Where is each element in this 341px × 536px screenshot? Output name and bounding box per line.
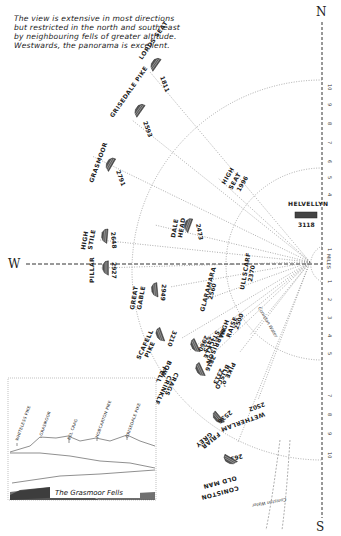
scale-north: 10 9 8 7 6 5 4 1 <box>327 84 333 251</box>
svg-text:7: 7 <box>327 141 333 144</box>
svg-text:2791: 2791 <box>115 169 127 187</box>
fell-scafell-pike: SCAFELL PIKE 3210 <box>135 327 179 360</box>
svg-text:2593: 2593 <box>142 120 154 138</box>
panorama-inset: WHITELESS PIKE GRASMOOR EEL CRAG HOBCART… <box>8 378 156 500</box>
svg-text:3210: 3210 <box>166 330 178 348</box>
fell-grisedale-pike: GRISEDALE PIKE 2593 <box>108 65 154 138</box>
fell-great-gable: GREAT GABLE 2949 <box>128 283 168 311</box>
scale-miles-label: MILES <box>326 254 332 269</box>
fell-grasmoor: GRASMOOR 2791 <box>87 141 127 187</box>
svg-text:2500: 2500 <box>232 312 244 330</box>
fell-high-seat: HIGH SEAT 1996 <box>220 166 249 193</box>
fell-glaramara: GLARAMARA 2560 <box>198 266 217 312</box>
svg-text:2370: 2370 <box>246 265 256 283</box>
west-label: W <box>8 257 21 271</box>
fell-dale-head: DALE HEAD 2473 <box>169 217 205 241</box>
view-diagram: N S W 10 9 8 7 6 5 4 1 MILES 1 2 3 4 5 7… <box>0 0 341 536</box>
svg-text:4: 4 <box>327 334 333 337</box>
north-label: N <box>316 5 327 19</box>
svg-text:5: 5 <box>327 352 333 355</box>
svg-text:3118: 3118 <box>298 221 315 228</box>
svg-text:2927: 2927 <box>111 262 118 279</box>
fell-high-stile: HIGH STILE 2648 <box>79 229 118 251</box>
svg-text:9: 9 <box>327 432 333 435</box>
svg-text:9: 9 <box>327 103 333 106</box>
south-label: S <box>316 520 324 534</box>
fell-pillar: PILLAR 2927 <box>88 257 118 283</box>
fell-bowfell: BOW FELL 2960 <box>155 335 211 385</box>
svg-text:6: 6 <box>327 160 333 163</box>
svg-text:7: 7 <box>327 394 333 397</box>
svg-text:8: 8 <box>327 413 333 416</box>
svg-text:5: 5 <box>327 176 333 179</box>
scale-south: 1 2 3 4 5 7 8 9 10 <box>327 280 333 458</box>
svg-text:4: 4 <box>327 193 333 196</box>
panorama-caption: The Grasmoor Fells <box>55 489 123 497</box>
svg-text:10: 10 <box>327 84 333 90</box>
svg-text:1: 1 <box>327 280 333 283</box>
svg-text:1: 1 <box>327 248 333 251</box>
svg-text:2648: 2648 <box>110 231 118 248</box>
svg-text:3: 3 <box>327 316 333 319</box>
fell-pike-o-blisco: PIKE o' BLISCO 2313 <box>212 362 237 391</box>
fell-coniston-old-man: 2635 OLD MAN CONISTON <box>201 453 244 502</box>
fell-lords-seat: LORDS SEAT 1811 <box>137 19 171 93</box>
svg-text:2949: 2949 <box>160 284 168 301</box>
svg-text:2473: 2473 <box>195 223 205 241</box>
svg-text:PILLAR: PILLAR <box>88 257 95 283</box>
svg-text:Coniston Water: Coniston Water <box>251 497 287 508</box>
svg-text:8: 8 <box>327 122 333 125</box>
svg-text:10: 10 <box>327 452 333 458</box>
coniston-water: Coniston Water <box>251 440 290 530</box>
svg-text:GRISEDALE PIKE: GRISEDALE PIKE <box>108 65 149 119</box>
svg-text:2: 2 <box>327 298 333 301</box>
svg-text:1811: 1811 <box>159 75 171 93</box>
fell-ullscarf: ULLSCARF 2370 <box>238 252 256 290</box>
svg-text:LORDS SEAT: LORDS SEAT <box>137 19 169 61</box>
svg-text:HELVELLYN: HELVELLYN <box>288 200 329 207</box>
